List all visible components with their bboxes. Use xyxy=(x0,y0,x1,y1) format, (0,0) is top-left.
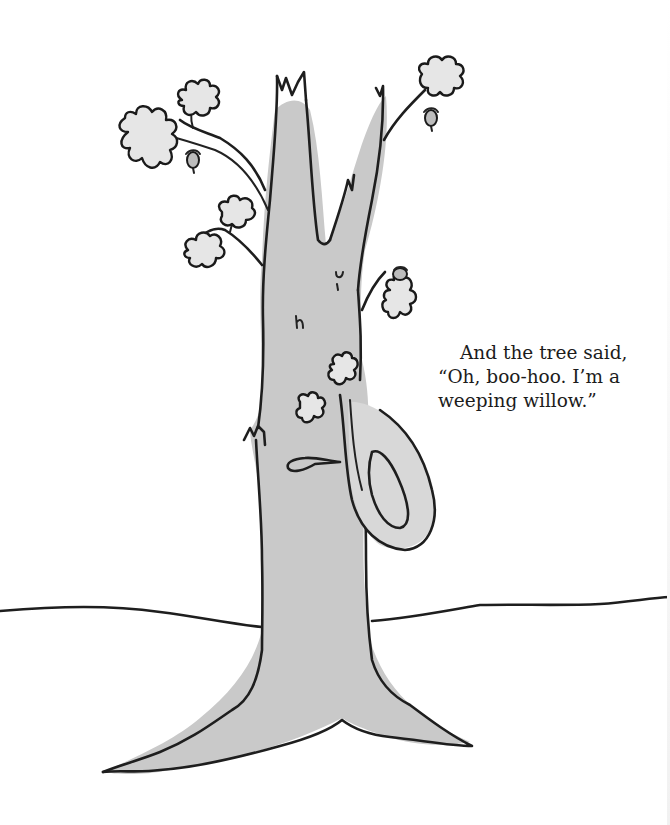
face-nose-icon xyxy=(337,284,338,290)
trunk-top-jagged xyxy=(277,72,306,100)
caption-line-3: weeping willow.” xyxy=(438,389,670,413)
acorn-left-icon xyxy=(186,150,200,173)
oak-leaf-tear-lower xyxy=(296,392,325,422)
acorn-upper-right-icon xyxy=(424,108,438,131)
acorn-right-icon xyxy=(393,267,407,280)
ground-line-left xyxy=(0,607,262,627)
oak-leaf-top-left-large xyxy=(119,106,177,168)
story-caption: And the tree said, “Oh, boo-hoo. I’m a w… xyxy=(438,341,670,413)
branch-upper-left-lower xyxy=(165,135,268,210)
book-page: And the tree said, “Oh, boo-hoo. I’m a w… xyxy=(0,0,670,825)
oak-leaf-tear-upper xyxy=(328,352,357,384)
trunk-wash xyxy=(103,96,470,774)
oak-leaf-mid-left-upper xyxy=(219,196,255,228)
branch-upper-right xyxy=(384,90,425,140)
caption-line-1: And the tree said, xyxy=(438,341,670,365)
oak-leaf-mid-left-lower xyxy=(184,233,224,267)
caption-line-2: “Oh, boo-hoo. I’m a xyxy=(438,365,670,389)
oak-leaf-top-left-small xyxy=(178,80,219,116)
ground-line-right xyxy=(372,597,670,621)
